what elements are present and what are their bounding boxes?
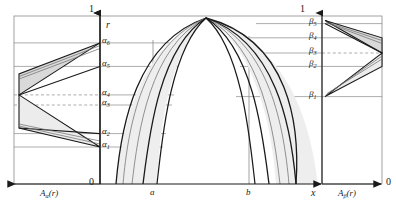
- right-lower-wedges-thin: [326, 56, 382, 95]
- left-upper-wedges: [19, 43, 100, 95]
- left-panel-group: [14, 13, 100, 184]
- right-panel-group: [322, 13, 382, 184]
- figure-container: α1 α2 α3 α4 α5 α6 Aα(r) 1 r 0 a b x 0 1 …: [0, 0, 396, 208]
- center-panel-group: [100, 13, 322, 184]
- center-x-right-label: 0: [386, 177, 391, 187]
- label-alpha-5: α5: [102, 59, 110, 69]
- center-tick-b-label: b: [246, 188, 251, 197]
- label-beta-5: β5: [309, 17, 317, 27]
- right-top-label: 1: [300, 4, 305, 14]
- left-panel-axis-label: Aα(r): [40, 189, 58, 199]
- center-y-top-label: 1: [89, 4, 94, 14]
- wedge-right-upper-thin-2: [327, 23, 382, 44]
- label-alpha-4: α4: [102, 88, 110, 98]
- wedge-upper-thin-2: [19, 49, 100, 80]
- center-y-axis-label: r: [106, 20, 110, 30]
- figure-canvas: [0, 0, 396, 208]
- label-beta-1: β1: [309, 90, 317, 100]
- label-alpha-3: α3: [102, 98, 110, 108]
- label-beta-4: β4: [309, 31, 317, 41]
- center-shade-right: [206, 18, 318, 184]
- wedge-upper-thin-1: [19, 46, 100, 77]
- label-beta-3: β3: [309, 46, 317, 56]
- center-x-axis-label: x: [311, 188, 315, 198]
- label-alpha-6: α6: [102, 36, 110, 46]
- wedge-right-lower-thin-2: [327, 59, 382, 94]
- label-alpha-1: α1: [102, 140, 110, 150]
- center-tick-a-label: a: [150, 188, 155, 197]
- center-y-bottom-label: 0: [89, 177, 94, 187]
- right-panel-axis-label: Aβ(r): [338, 189, 356, 199]
- label-beta-2: β2: [309, 59, 317, 69]
- label-alpha-2: α2: [102, 127, 110, 137]
